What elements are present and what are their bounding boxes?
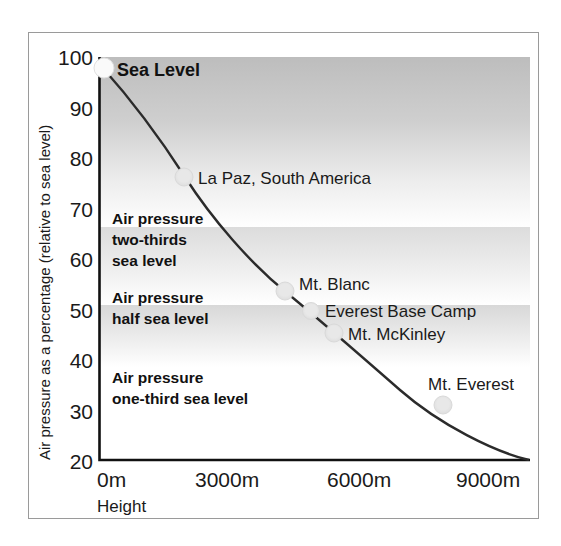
x-axis-tick-labels: 0m 3000m 6000m 9000m (97, 468, 520, 491)
y-tick-60: 60 (70, 248, 93, 271)
annotation-one-third-line1: Air pressure (112, 369, 204, 386)
marker-mt-blanc[interactable] (276, 282, 294, 300)
y-axis-tick-labels: 100 90 80 70 60 50 40 30 20 (58, 46, 93, 473)
label-mt-everest: Mt. Everest (428, 375, 514, 394)
annotation-half-line2: half sea level (112, 310, 209, 327)
annotation-one-third-line2: one-third sea level (112, 390, 248, 407)
air-pressure-altitude-chart: Sea Level La Paz, South America Mt. Blan… (0, 0, 561, 546)
label-mt-blanc: Mt. Blanc (299, 275, 370, 294)
band-sea-level (99, 57, 530, 227)
annotation-half-line1: Air pressure (112, 289, 204, 306)
label-sea-level: Sea Level (117, 60, 200, 80)
annotation-two-thirds-line2: two-thirds (112, 231, 187, 248)
marker-everest-base-camp[interactable] (303, 303, 320, 320)
x-tick-9000m: 9000m (456, 468, 520, 491)
y-tick-30: 30 (70, 400, 93, 423)
x-tick-3000m: 3000m (195, 468, 259, 491)
y-tick-40: 40 (70, 349, 93, 372)
marker-mt-mckinley[interactable] (325, 324, 343, 342)
y-tick-100: 100 (58, 46, 93, 69)
annotation-two-thirds-line3: sea level (112, 252, 177, 269)
marker-mt-everest[interactable] (434, 396, 452, 414)
y-tick-20: 20 (70, 450, 93, 473)
marker-sea-level[interactable] (94, 58, 114, 78)
y-tick-80: 80 (70, 147, 93, 170)
annotation-two-thirds-line1: Air pressure (112, 210, 204, 227)
y-tick-90: 90 (70, 97, 93, 120)
x-axis-title: Height (97, 497, 146, 516)
label-mt-mckinley: Mt. McKinley (348, 325, 446, 344)
x-tick-6000m: 6000m (327, 468, 391, 491)
x-tick-0m: 0m (97, 468, 126, 491)
figure-container: Sea Level La Paz, South America Mt. Blan… (0, 0, 561, 546)
label-la-paz: La Paz, South America (198, 169, 371, 188)
label-everest-base-camp: Everest Base Camp (325, 302, 476, 321)
marker-la-paz[interactable] (175, 168, 193, 186)
y-tick-70: 70 (70, 198, 93, 221)
y-tick-50: 50 (70, 299, 93, 322)
y-axis-title: Air pressure as a percentage (relative t… (36, 125, 53, 460)
